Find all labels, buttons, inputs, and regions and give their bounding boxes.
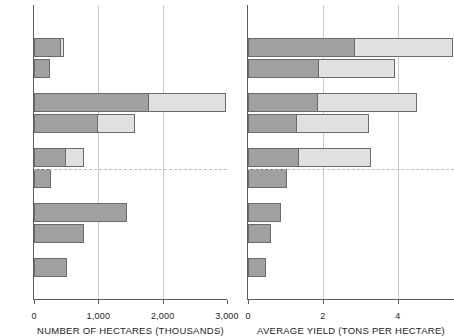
bar-segment-first	[248, 114, 297, 133]
bar-segment-first	[248, 59, 319, 78]
bar-segment-first	[248, 148, 299, 167]
bar-segment-second	[298, 148, 371, 167]
x-tick-label: 2	[320, 311, 325, 321]
bar	[34, 93, 226, 112]
bar-segment-first	[248, 38, 355, 57]
reference-line-yield	[248, 169, 454, 170]
bar-segment-first	[34, 148, 66, 167]
x-tick-label: 0	[31, 311, 36, 321]
bar	[248, 148, 371, 167]
plot-area-hectares: 01,0002,0003,000 NUMBER OF HECTARES (THO…	[33, 5, 227, 300]
bar	[34, 203, 127, 222]
x-tick-label: 1,000	[87, 311, 111, 321]
bar	[34, 148, 84, 167]
bar	[248, 169, 287, 188]
bar-segment-second	[317, 93, 417, 112]
bar-segment-first	[248, 203, 281, 222]
bar-segment-first	[34, 93, 149, 112]
bar-segment-first	[34, 169, 51, 188]
bars-clip-hectares	[34, 5, 227, 300]
x-tick	[34, 300, 35, 304]
bars-clip-yield	[248, 5, 454, 300]
bar	[248, 59, 395, 78]
bar	[34, 38, 64, 57]
reference-line-hectares	[34, 169, 227, 170]
bar-segment-second	[318, 59, 395, 78]
bar	[34, 59, 50, 78]
bar-segment-second	[65, 148, 84, 167]
bar-segment-second	[97, 114, 134, 133]
x-axis-label-yield: AVERAGE YIELD (TONS PER HECTARE)	[257, 325, 445, 336]
bar	[34, 169, 51, 188]
x-tick-label: 2,000	[151, 311, 175, 321]
bar	[248, 224, 271, 243]
bar-segment-first	[34, 114, 98, 133]
panel-number-of-hectares: 01,0002,0003,000 NUMBER OF HECTARES (THO…	[0, 0, 227, 334]
x-tick	[248, 300, 249, 304]
bar-segment-first	[34, 38, 61, 57]
bar-segment-first	[34, 224, 84, 243]
bar-segment-first	[248, 258, 266, 277]
gridline	[98, 5, 99, 300]
x-tick	[163, 300, 164, 304]
x-tick	[398, 300, 399, 304]
gridline	[163, 5, 164, 300]
x-tick-label: 4	[395, 311, 400, 321]
bar-segment-second	[60, 38, 64, 57]
bar	[248, 93, 417, 112]
bar	[248, 114, 369, 133]
bar	[248, 258, 266, 277]
bar-segment-second	[354, 38, 453, 57]
bar-segment-second	[296, 114, 369, 133]
bar-segment-second	[148, 93, 226, 112]
bar	[248, 38, 453, 57]
x-tick	[323, 300, 324, 304]
bar	[34, 224, 84, 243]
x-tick	[98, 300, 99, 304]
bar-segment-first	[248, 93, 318, 112]
bar-segment-first	[248, 169, 287, 188]
bar	[34, 258, 67, 277]
x-axis-yield	[248, 299, 454, 300]
plot-area-yield: 024 AVERAGE YIELD (TONS PER HECTARE)	[247, 5, 454, 300]
x-axis-label-hectares: NUMBER OF HECTARES (THOUSANDS)	[37, 325, 224, 336]
bar-segment-first	[34, 59, 50, 78]
panel-average-yield: 024 AVERAGE YIELD (TONS PER HECTARE)	[227, 0, 454, 334]
bar-segment-first	[34, 203, 127, 222]
bar-segment-first	[34, 258, 67, 277]
bar	[34, 114, 135, 133]
x-axis-hectares	[34, 299, 227, 300]
bar	[248, 203, 281, 222]
x-tick-label: 0	[245, 311, 250, 321]
bar-segment-first	[248, 224, 271, 243]
